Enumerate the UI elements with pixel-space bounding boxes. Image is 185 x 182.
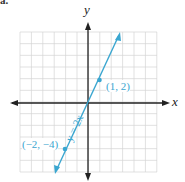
x-axis-label: x bbox=[172, 94, 178, 110]
x-axis-right-arrow-icon bbox=[162, 100, 170, 106]
y-axis-up-arrow-icon bbox=[85, 22, 91, 30]
x-axis-left-arrow-icon bbox=[10, 100, 18, 106]
point-label-neg2-neg4: (−2, −4) bbox=[22, 138, 58, 150]
y-axis-down-arrow-icon bbox=[85, 173, 91, 181]
line-lower-arrow-icon bbox=[54, 165, 60, 174]
y-axis-label: y bbox=[84, 2, 90, 18]
point-1-2 bbox=[97, 78, 102, 83]
point-label-1-2: (1, 2) bbox=[106, 80, 130, 92]
point-neg2-neg4 bbox=[63, 147, 68, 152]
line-upper-arrow-icon bbox=[115, 32, 121, 41]
coordinate-plane bbox=[0, 0, 185, 182]
